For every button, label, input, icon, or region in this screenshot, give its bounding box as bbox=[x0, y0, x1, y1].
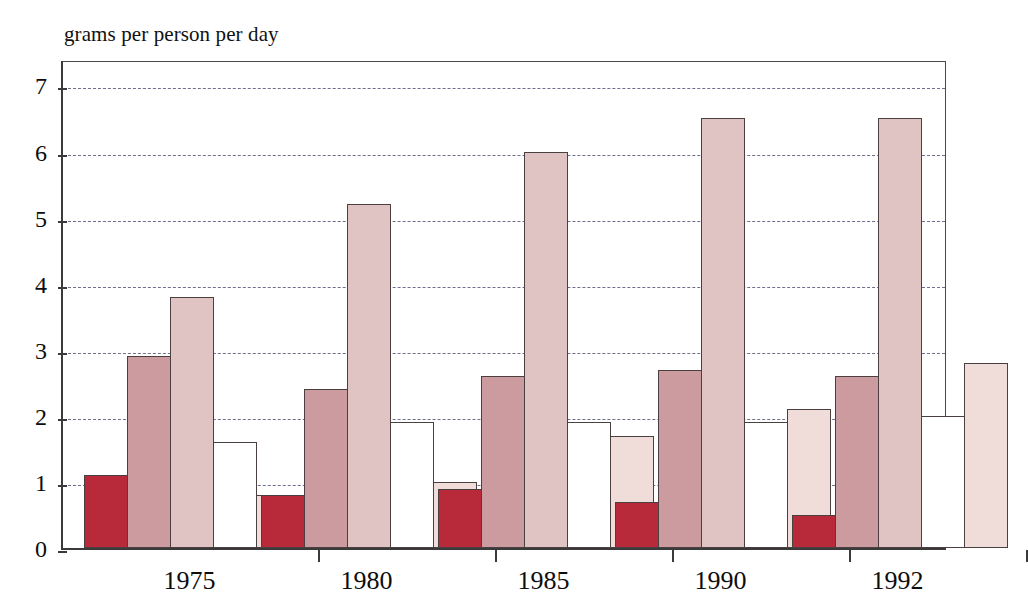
y-axis-tick bbox=[58, 221, 67, 223]
bar bbox=[792, 515, 836, 548]
bar bbox=[921, 416, 965, 548]
bar bbox=[701, 118, 745, 548]
bar bbox=[524, 152, 568, 548]
y-axis-tick-label: 3 bbox=[13, 339, 47, 363]
y-axis-tick bbox=[58, 155, 67, 157]
y-axis-tick bbox=[58, 419, 67, 421]
y-axis-tick-label: 5 bbox=[13, 207, 47, 231]
y-axis-tick bbox=[58, 485, 67, 487]
bar bbox=[170, 297, 214, 548]
gridline bbox=[63, 88, 945, 89]
plot-frame bbox=[61, 61, 946, 550]
bar bbox=[744, 422, 788, 548]
bar bbox=[615, 502, 659, 548]
bar bbox=[304, 389, 348, 548]
y-axis-tick-label: 7 bbox=[13, 74, 47, 98]
bar bbox=[481, 376, 525, 548]
chart-title: grams per person per day bbox=[64, 22, 279, 46]
bar bbox=[347, 204, 391, 548]
bar bbox=[964, 363, 1008, 548]
bar bbox=[127, 356, 171, 548]
x-axis-ticks bbox=[61, 550, 946, 562]
bar bbox=[567, 422, 611, 548]
y-axis-tick bbox=[58, 353, 67, 355]
x-axis-tick-label: 1980 bbox=[341, 566, 393, 596]
x-axis-labels: 19751980198519901992 bbox=[61, 566, 946, 606]
y-axis-labels: 01234567 bbox=[13, 61, 47, 550]
gridline bbox=[63, 287, 945, 288]
bar bbox=[658, 370, 702, 548]
x-axis-tick bbox=[672, 550, 674, 562]
y-axis-tick-label: 1 bbox=[13, 471, 47, 495]
x-axis-tick-label: 1985 bbox=[518, 566, 570, 596]
x-axis-tick-label: 1975 bbox=[164, 566, 216, 596]
y-axis-tick-label: 2 bbox=[13, 405, 47, 429]
x-axis-tick-label: 1990 bbox=[695, 566, 747, 596]
bar bbox=[84, 475, 128, 548]
x-axis-tick bbox=[495, 550, 497, 562]
plot-area bbox=[63, 62, 945, 548]
gridline bbox=[63, 221, 945, 222]
bar bbox=[438, 489, 482, 548]
x-axis-tick bbox=[318, 550, 320, 562]
bar bbox=[878, 118, 922, 548]
gridline bbox=[63, 155, 945, 156]
bar bbox=[390, 422, 434, 548]
x-axis-tick bbox=[849, 550, 851, 562]
x-axis-tick-label: 1992 bbox=[872, 566, 924, 596]
bar bbox=[835, 376, 879, 548]
bar bbox=[213, 442, 257, 548]
y-axis-tick bbox=[58, 287, 67, 289]
bar bbox=[261, 495, 305, 548]
y-axis-tick bbox=[58, 88, 67, 90]
y-axis-tick-label: 4 bbox=[13, 273, 47, 297]
y-axis-tick-label: 0 bbox=[13, 537, 47, 561]
y-axis-tick-label: 6 bbox=[13, 141, 47, 165]
